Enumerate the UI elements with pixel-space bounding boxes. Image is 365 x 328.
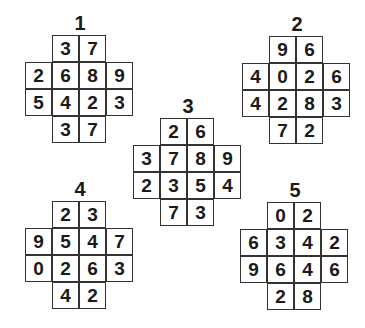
- grid-cell: 2: [296, 63, 323, 90]
- grid-cell: 6: [267, 256, 294, 283]
- grid-cell: 7: [79, 35, 106, 62]
- grid-cell: 2: [269, 90, 296, 117]
- grid-cell: 8: [294, 283, 321, 310]
- grid-cell: 4: [214, 172, 241, 199]
- grid-cell: 2: [52, 201, 79, 228]
- puzzle-number-label: 4: [25, 179, 135, 199]
- grid-cell: 6: [240, 229, 267, 256]
- grid-cell: 3: [52, 116, 79, 143]
- grid-cell: 5: [25, 89, 52, 116]
- grid-cell: 0: [25, 255, 52, 282]
- number-grid: 026342964628: [240, 202, 350, 312]
- grid-cell: 2: [294, 202, 321, 229]
- grid-cell: 4: [294, 229, 321, 256]
- grid-cell: 7: [160, 145, 187, 172]
- grid-cell: 9: [269, 36, 296, 63]
- grid-cell: 7: [269, 117, 296, 144]
- grid-cell: 3: [106, 255, 133, 282]
- grid-cell: 2: [321, 229, 348, 256]
- puzzle-2: 2964026428372: [242, 14, 352, 144]
- grid-cell: 5: [187, 172, 214, 199]
- grid-cell: 4: [294, 256, 321, 283]
- grid-cell: 8: [187, 145, 214, 172]
- grid-cell: 4: [52, 282, 79, 309]
- number-grid: 372689542337: [25, 35, 135, 145]
- puzzle-number-label: 3: [133, 96, 243, 116]
- grid-cell: 2: [267, 283, 294, 310]
- grid-cell: 6: [52, 62, 79, 89]
- grid-cell: 2: [79, 89, 106, 116]
- grid-cell: 7: [79, 116, 106, 143]
- number-grid: 239547026342: [25, 201, 135, 311]
- grid-cell: 2: [160, 118, 187, 145]
- grid-cell: 2: [296, 117, 323, 144]
- number-grid: 263789235473: [133, 118, 243, 228]
- grid-cell: 3: [160, 172, 187, 199]
- grid-cell: 4: [242, 90, 269, 117]
- grid-cell: 6: [187, 118, 214, 145]
- grid-cell: 2: [133, 172, 160, 199]
- grid-cell: 9: [25, 228, 52, 255]
- puzzle-number-label: 1: [25, 13, 135, 33]
- grid-cell: 5: [52, 228, 79, 255]
- grid-cell: 6: [296, 36, 323, 63]
- grid-cell: 2: [52, 255, 79, 282]
- number-grid: 964026428372: [242, 36, 352, 146]
- puzzle-1: 1372689542337: [25, 13, 135, 143]
- grid-cell: 3: [187, 199, 214, 226]
- grid-cell: 7: [160, 199, 187, 226]
- grid-cell: 3: [52, 35, 79, 62]
- grid-cell: 6: [321, 256, 348, 283]
- grid-cell: 2: [79, 282, 106, 309]
- grid-cell: 9: [240, 256, 267, 283]
- grid-cell: 6: [79, 255, 106, 282]
- grid-cell: 9: [214, 145, 241, 172]
- puzzle-4: 4239547026342: [25, 179, 135, 309]
- puzzle-number-label: 5: [240, 180, 350, 200]
- grid-cell: 8: [296, 90, 323, 117]
- grid-cell: 4: [52, 89, 79, 116]
- grid-cell: 3: [323, 90, 350, 117]
- grid-cell: 3: [133, 145, 160, 172]
- grid-cell: 0: [267, 202, 294, 229]
- grid-cell: 3: [267, 229, 294, 256]
- grid-cell: 9: [106, 62, 133, 89]
- puzzle-5: 5026342964628: [240, 180, 350, 310]
- grid-cell: 2: [25, 62, 52, 89]
- grid-cell: 4: [79, 228, 106, 255]
- grid-cell: 3: [106, 89, 133, 116]
- grid-cell: 6: [323, 63, 350, 90]
- grid-cell: 3: [79, 201, 106, 228]
- grid-cell: 7: [106, 228, 133, 255]
- grid-cell: 0: [269, 63, 296, 90]
- puzzle-3: 3263789235473: [133, 96, 243, 226]
- grid-cell: 8: [79, 62, 106, 89]
- puzzle-number-label: 2: [242, 14, 352, 34]
- grid-cell: 4: [242, 63, 269, 90]
